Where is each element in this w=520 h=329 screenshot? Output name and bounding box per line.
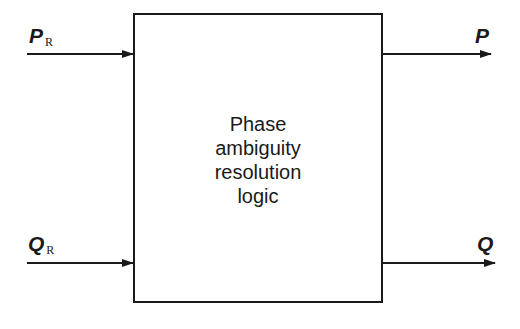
output-label-q: Q: [477, 232, 493, 256]
block-label: Phase ambiguity resolution logic: [135, 112, 381, 208]
block-label-line: logic: [135, 184, 381, 208]
input-subscript: R: [46, 243, 54, 257]
input-subscript: R: [45, 35, 53, 49]
input-symbol: P: [29, 24, 43, 47]
block-label-line: Phase: [135, 112, 381, 136]
output-symbol: P: [475, 24, 489, 47]
output-label-p: P: [475, 24, 489, 48]
input-symbol: Q: [28, 232, 44, 255]
phase-ambiguity-resolution-block: Phase ambiguity resolution logic: [133, 13, 383, 303]
block-label-line: resolution: [135, 160, 381, 184]
input-label-qr: QR: [28, 232, 54, 258]
block-label-line: ambiguity: [135, 136, 381, 160]
input-label-pr: PR: [29, 24, 53, 50]
output-symbol: Q: [477, 232, 493, 255]
